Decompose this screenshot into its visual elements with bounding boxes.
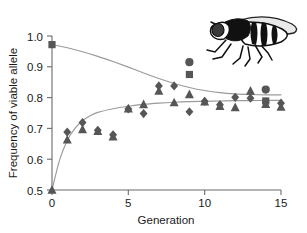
fitted-curves — [52, 45, 281, 190]
data-point-diamond — [185, 107, 193, 116]
data-point-square — [48, 41, 55, 48]
data-point-triangle — [246, 86, 255, 95]
y-tick-label: 0.5 — [27, 185, 43, 197]
y-tick-label: 0.8 — [27, 92, 43, 104]
x-tick-label: 10 — [198, 197, 211, 209]
x-tick-label: 15 — [275, 197, 288, 209]
y-axis-title: Frequency of viable allele — [7, 48, 19, 178]
data-point-square — [186, 71, 193, 78]
y-tick-label: 0.7 — [27, 123, 43, 135]
x-axis-ticks — [52, 190, 281, 195]
rising-fit-curve — [52, 100, 281, 190]
fruit-fly-illustration — [207, 17, 297, 66]
data-point-circle — [262, 85, 270, 93]
series-1-circle — [185, 58, 270, 94]
x-axis-title: Generation — [138, 214, 195, 226]
declining-fit-curve — [52, 45, 281, 95]
figure-container: 1.0 0.9 0.8 0.7 0.6 0.5 0 5 10 15 Genera… — [0, 0, 307, 233]
y-tick-label: 1.0 — [27, 31, 43, 43]
x-tick-label: 0 — [49, 197, 55, 209]
data-point-triangle — [231, 103, 240, 112]
x-tick-label: 5 — [125, 197, 131, 209]
data-point-triangle — [109, 132, 118, 141]
y-axis-ticks — [47, 36, 52, 190]
data-point-triangle — [154, 86, 163, 95]
x-tick-labels: 0 5 10 15 — [49, 197, 288, 209]
y-tick-label: 0.9 — [27, 61, 43, 73]
data-point-triangle — [63, 135, 72, 144]
y-tick-labels: 1.0 0.9 0.8 0.7 0.6 0.5 — [27, 31, 43, 197]
data-point-triangle — [215, 101, 224, 110]
data-point-markers — [47, 41, 285, 194]
axes — [47, 36, 281, 195]
y-tick-label: 0.6 — [27, 154, 43, 166]
data-point-diamond — [140, 109, 148, 118]
data-point-circle — [185, 58, 193, 66]
scatter-plot: 1.0 0.9 0.8 0.7 0.6 0.5 0 5 10 15 Genera… — [0, 0, 307, 233]
data-point-triangle — [185, 90, 194, 99]
data-point-triangle — [78, 124, 87, 133]
